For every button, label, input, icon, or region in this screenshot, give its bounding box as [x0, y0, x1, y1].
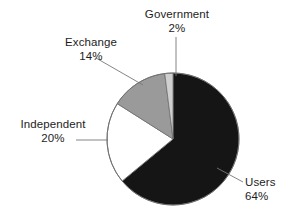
pie-label-exchange-value: 14% [55, 50, 127, 64]
pie-label-exchange-name: Exchange [55, 36, 127, 50]
pie-label-exchange: Exchange 14% [55, 36, 127, 63]
pie-label-government-name: Government [137, 8, 217, 22]
pie-label-independent-value: 20% [8, 132, 98, 146]
pie-label-users-name: Users [245, 176, 291, 190]
pie-chart-figure: Government 2% Exchange 14% Independent 2… [0, 0, 295, 223]
pie-label-users: Users 64% [245, 176, 291, 203]
pie-label-independent-name: Independent [8, 118, 98, 132]
pie-label-government: Government 2% [137, 8, 217, 35]
pie-label-users-value: 64% [245, 190, 291, 204]
pie-label-government-value: 2% [137, 22, 217, 36]
pie-label-independent: Independent 20% [8, 118, 98, 145]
